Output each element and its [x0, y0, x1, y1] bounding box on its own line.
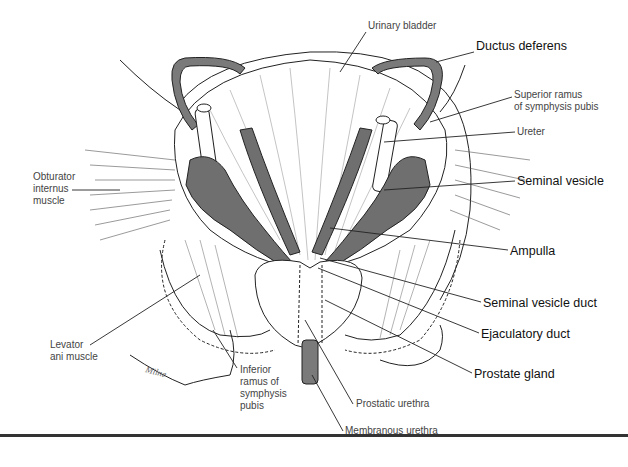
- label-prostate-gland: Prostate gland: [474, 367, 555, 381]
- label-ductus-deferens: Ductus deferens: [476, 39, 567, 53]
- anatomy-figure: Milne Urinary bladder Ductus deferens Su…: [0, 0, 628, 467]
- figure-divider-rule: [0, 434, 628, 437]
- pelvic-organs-illustration: Milne: [0, 0, 628, 467]
- label-obturator-internus: Obturator internus muscle: [33, 171, 75, 207]
- label-ureter: Ureter: [517, 126, 545, 138]
- label-ejaculatory-duct: Ejaculatory duct: [481, 327, 570, 341]
- label-superior-ramus: Superior ramus of symphysis pubis: [514, 89, 598, 113]
- label-prostatic-urethra: Prostatic urethra: [356, 398, 429, 410]
- label-ampulla: Ampulla: [510, 244, 555, 258]
- label-seminal-vesicle-duct: Seminal vesicle duct: [483, 296, 597, 310]
- label-levator-ani: Levator ani muscle: [50, 339, 98, 363]
- svg-text:Milne: Milne: [144, 364, 168, 379]
- label-inferior-ramus: Inferior ramus of symphysis pubis: [240, 364, 287, 412]
- label-urinary-bladder: Urinary bladder: [368, 20, 436, 32]
- label-seminal-vesicle: Seminal vesicle: [517, 174, 604, 188]
